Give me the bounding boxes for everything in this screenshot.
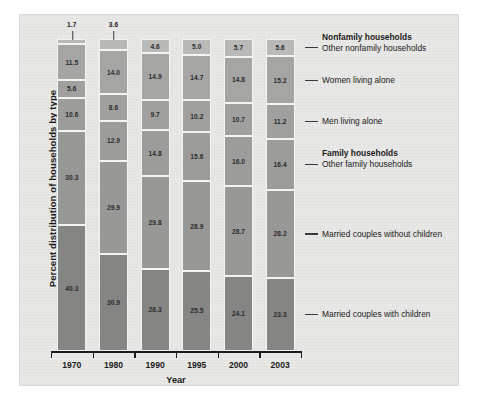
bar-segment[interactable]: 29.9 bbox=[99, 161, 128, 254]
segment-value-label: 40.3 bbox=[65, 285, 78, 292]
segment-value-label: 11.2 bbox=[274, 118, 287, 125]
x-tick-label-1995: 1995 bbox=[177, 360, 217, 370]
segment-value-label: 14.7 bbox=[190, 74, 203, 81]
segment-value-label: 15.2 bbox=[274, 77, 287, 84]
legend-item[interactable]: Other nonfamily households bbox=[305, 43, 426, 53]
bar-2000[interactable]: 5.714.810.716.028.724.1 bbox=[224, 39, 253, 351]
bar-segment[interactable]: 15.6 bbox=[182, 132, 211, 181]
x-axis-tick-labels: 197019801990199520002003 bbox=[51, 360, 301, 374]
legend-item[interactable]: Married couples without children bbox=[305, 229, 442, 239]
x-axis-tick bbox=[259, 351, 260, 358]
bar-segment[interactable]: 14.0 bbox=[99, 50, 128, 94]
x-axis-tick bbox=[51, 351, 52, 358]
bar-segment[interactable]: 14.7 bbox=[182, 55, 211, 101]
bar-segment[interactable]: 11.2 bbox=[266, 104, 295, 139]
legend-leader-line bbox=[305, 47, 318, 48]
chart-legend: Nonfamily householdsOther nonfamily hous… bbox=[305, 39, 457, 351]
segment-value-label: 10.2 bbox=[190, 113, 203, 120]
legend-label: Women living alone bbox=[322, 75, 395, 85]
legend-item[interactable]: Married couples with children bbox=[305, 309, 430, 319]
bar-1995[interactable]: 5.014.710.215.628.925.5 bbox=[182, 39, 211, 351]
bar-segment[interactable]: 30.9 bbox=[99, 254, 128, 350]
x-axis-tick bbox=[93, 351, 94, 358]
segment-value-label: 16.0 bbox=[232, 158, 245, 165]
bar-1980[interactable]: 3.614.08.612.929.930.9 bbox=[99, 39, 128, 351]
bar-2003[interactable]: 5.615.211.216.428.223.3 bbox=[266, 39, 295, 351]
legend-item[interactable]: Women living alone bbox=[305, 75, 395, 85]
segment-value-label: 14.8 bbox=[149, 150, 162, 157]
bar-1990[interactable]: 4.614.99.714.829.826.3 bbox=[141, 39, 170, 351]
segment-value-label: 14.0 bbox=[107, 69, 120, 76]
legend-item[interactable]: Other family households bbox=[305, 159, 412, 169]
segment-value-label: 12.9 bbox=[107, 137, 120, 144]
bar-segment[interactable]: 30.3 bbox=[57, 131, 86, 226]
segment-value-label: 28.7 bbox=[232, 228, 245, 235]
x-axis-title: Year bbox=[51, 375, 301, 385]
legend-leader-line bbox=[305, 233, 318, 234]
x-axis-tick bbox=[176, 351, 177, 358]
legend-leader-line bbox=[305, 164, 318, 165]
legend-label: Other nonfamily households bbox=[322, 43, 426, 53]
bar-segment[interactable]: 8.6 bbox=[99, 94, 128, 121]
segment-value-label: 28.9 bbox=[190, 223, 203, 230]
bar-segment[interactable]: 10.2 bbox=[182, 100, 211, 132]
bar-segment[interactable]: 24.1 bbox=[224, 276, 253, 351]
bar-segment[interactable]: 5.6 bbox=[266, 39, 295, 56]
bar-segment[interactable]: 28.9 bbox=[182, 181, 211, 271]
chart-figure: Percent distribution of households by ty… bbox=[19, 14, 459, 386]
bar-segment[interactable]: 28.7 bbox=[224, 186, 253, 276]
legend-label: Nonfamily households bbox=[322, 32, 412, 42]
plot-area: 1.711.55.610.630.340.33.614.08.612.929.9… bbox=[51, 39, 301, 351]
bar-segment[interactable]: 26.3 bbox=[141, 269, 170, 351]
bar-segment[interactable]: 28.2 bbox=[266, 190, 295, 278]
segment-value-label: 30.9 bbox=[107, 299, 120, 306]
bar-segment[interactable]: 15.2 bbox=[266, 56, 295, 103]
bar-segment[interactable]: 40.3 bbox=[57, 225, 86, 351]
segment-value-label: 5.7 bbox=[234, 44, 243, 51]
segment-value-label: 29.8 bbox=[149, 219, 162, 226]
legend-label: Other family households bbox=[322, 159, 412, 169]
legend-leader-line bbox=[305, 121, 318, 122]
segment-value-label: 10.7 bbox=[232, 116, 245, 123]
segment-value-label: 9.7 bbox=[150, 111, 159, 118]
x-tick-label-1980: 1980 bbox=[94, 360, 134, 370]
segment-value-label: 14.9 bbox=[149, 73, 162, 80]
bar-segment[interactable]: 14.8 bbox=[224, 57, 253, 103]
x-axis-tick bbox=[301, 351, 302, 358]
segment-value-label: 29.9 bbox=[107, 204, 120, 211]
legend-label: Men living alone bbox=[322, 116, 383, 126]
bar-1970[interactable]: 1.711.55.610.630.340.3 bbox=[57, 39, 86, 351]
bar-segment[interactable]: 5.0 bbox=[182, 39, 211, 55]
bar-segment[interactable]: 3.6 bbox=[99, 39, 128, 50]
segment-value-label: 14.8 bbox=[232, 76, 245, 83]
segment-value-label: 15.6 bbox=[190, 153, 203, 160]
bar-segment[interactable]: 16.0 bbox=[224, 136, 253, 186]
bar-segment[interactable]: 14.9 bbox=[141, 53, 170, 99]
bar-segment[interactable]: 12.9 bbox=[99, 121, 128, 161]
bar-segment[interactable]: 16.4 bbox=[266, 139, 295, 190]
bar-segment[interactable]: 4.6 bbox=[141, 39, 170, 53]
bar-segment[interactable]: 25.5 bbox=[182, 271, 211, 351]
legend-label: Family households bbox=[322, 148, 398, 158]
bar-segment[interactable]: 5.6 bbox=[57, 80, 86, 97]
bar-segment[interactable]: 10.7 bbox=[224, 103, 253, 136]
segment-value-label: 5.0 bbox=[192, 43, 201, 50]
bar-segment[interactable]: 9.7 bbox=[141, 100, 170, 130]
segment-value-label: 25.5 bbox=[190, 307, 203, 314]
segment-value-label: 24.1 bbox=[232, 310, 245, 317]
bar-segment[interactable]: 14.8 bbox=[141, 130, 170, 176]
bar-segment[interactable]: 5.7 bbox=[224, 39, 253, 57]
segment-value-label: 1.7 bbox=[67, 21, 76, 28]
legend-item[interactable]: Men living alone bbox=[305, 116, 383, 126]
segment-value-label: 4.6 bbox=[150, 43, 159, 50]
x-axis bbox=[51, 351, 301, 352]
segment-value-label: 28.2 bbox=[274, 230, 287, 237]
bar-segment[interactable]: 10.6 bbox=[57, 98, 86, 131]
segment-value-label: 10.6 bbox=[65, 111, 78, 118]
x-tick-label-1990: 1990 bbox=[135, 360, 175, 370]
segment-value-label: 23.3 bbox=[274, 311, 287, 318]
bar-segment[interactable]: 23.3 bbox=[266, 278, 295, 351]
segment-value-label: 5.6 bbox=[275, 44, 284, 51]
bar-segment[interactable]: 29.8 bbox=[141, 176, 170, 269]
bar-segment[interactable]: 11.5 bbox=[57, 44, 86, 80]
